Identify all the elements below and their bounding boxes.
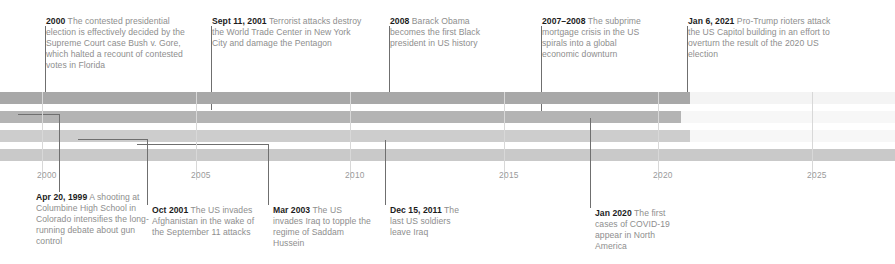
leader-line-jan-2020 xyxy=(590,118,591,208)
annotation-date: Oct 2001 xyxy=(152,205,188,215)
annotation-below-jan-2020: Jan 2020 The first cases of COVID-19 app… xyxy=(595,208,681,252)
annotation-above-sept-11-2001: Sept 11, 2001 Terrorist attacks destroy … xyxy=(212,16,367,49)
annotation-date: Mar 2003 xyxy=(273,205,310,215)
bar-row-3-fill xyxy=(0,130,690,142)
bar-row-4 xyxy=(0,149,895,161)
axis-tick-2000: 2000 xyxy=(37,170,57,180)
leader-line-mar-2003-jog xyxy=(137,144,269,145)
leader-line-1999-jog xyxy=(18,114,60,115)
bar-row-3-rest xyxy=(690,130,895,142)
axis-tick-2020: 2020 xyxy=(653,170,673,180)
gridline-2020 xyxy=(658,92,659,180)
annotation-above-jan-6-2021: Jan 6, 2021 Pro-Trump rioters attack the… xyxy=(688,16,840,60)
bar-row-1-fill xyxy=(0,92,690,104)
axis-tick-2005: 2005 xyxy=(191,170,211,180)
annotation-above-2008: 2008 Barack Obama becomes the first Blac… xyxy=(390,16,495,49)
annotation-date: Jan 2020 xyxy=(595,208,632,218)
leader-line-jan-6-2021 xyxy=(687,26,688,102)
axis-tick-2025: 2025 xyxy=(807,170,827,180)
annotation-below-mar-2003: Mar 2003 The US invades Iraq to topple t… xyxy=(273,205,371,249)
annotation-date: Sept 11, 2001 xyxy=(212,16,267,26)
gridline-2010 xyxy=(350,92,351,180)
bar-row-1 xyxy=(0,92,895,104)
bar-row-1-rest xyxy=(690,92,895,104)
gridline-2000 xyxy=(42,92,43,180)
annotation-date: Apr 20, 1999 xyxy=(36,192,87,202)
leader-line-2000 xyxy=(45,26,46,94)
bar-row-4-fill xyxy=(0,149,895,161)
annotation-date: 2000 xyxy=(46,16,65,26)
axis-tick-2010: 2010 xyxy=(345,170,365,180)
annotation-above-2007-2008: 2007–2008 The subprime mortgage crisis i… xyxy=(542,16,654,60)
gridline-2005 xyxy=(196,92,197,180)
bar-row-2 xyxy=(0,111,895,123)
bar-row-2-rest xyxy=(681,111,895,123)
annotation-date: Jan 6, 2021 xyxy=(688,16,734,26)
gridline-2015 xyxy=(504,92,505,180)
gridline-2025 xyxy=(812,92,813,180)
annotation-above-2000: 2000 The contested presidential election… xyxy=(46,16,196,71)
annotation-date: Dec 15, 2011 xyxy=(390,205,442,215)
timeline-infographic: 2000 The contested presidential election… xyxy=(0,0,895,264)
annotation-below-dec-15-2011: Dec 15, 2011 The last US soldiers leave … xyxy=(390,205,462,238)
leader-line-oct-2001-jog xyxy=(78,139,148,140)
leader-line-mar-2003 xyxy=(268,144,269,205)
axis-tick-2015: 2015 xyxy=(499,170,519,180)
annotation-below-apr-20-1999: Apr 20, 1999 A shooting at Columbine Hig… xyxy=(36,192,154,247)
leader-line-2008 xyxy=(389,26,390,100)
bar-row-3 xyxy=(0,130,895,142)
annotation-date: 2008 xyxy=(390,16,409,26)
leader-line-1999 xyxy=(59,114,60,192)
annotation-below-oct-2001: Oct 2001 The US invades Afghanistan in t… xyxy=(152,205,256,238)
leader-line-dec-15-2011 xyxy=(385,140,386,205)
bar-row-2-fill xyxy=(0,111,681,123)
annotation-text: The contested presidential election is e… xyxy=(46,16,185,70)
annotation-date: 2007–2008 xyxy=(542,16,585,26)
